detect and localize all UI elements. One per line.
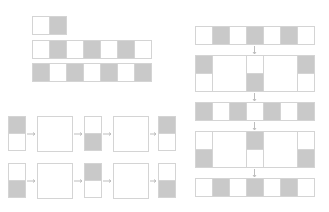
- white-cell: [9, 134, 26, 151]
- gray-cell: [247, 74, 264, 92]
- white-cell: [101, 41, 118, 59]
- gray-cell: [230, 103, 247, 121]
- gray-cell: [247, 179, 264, 197]
- white-cell: [298, 74, 315, 92]
- gray-cell: [298, 56, 315, 74]
- gray-cell: [298, 150, 315, 168]
- gray-cell: [9, 117, 26, 134]
- white-cell: [264, 27, 281, 45]
- gray-cell: [213, 27, 230, 45]
- gray-cell: [213, 179, 230, 197]
- gray-cell: [50, 41, 67, 59]
- white-cell: [33, 41, 50, 59]
- white-cell: [85, 117, 102, 134]
- white-cell: [196, 74, 213, 92]
- white-cell: [281, 103, 298, 121]
- white-cell: [213, 103, 230, 121]
- white-cell: [9, 164, 26, 181]
- gray-cell: [85, 134, 102, 151]
- white-cell: [85, 181, 102, 198]
- gray-cell: [247, 132, 264, 150]
- gray-cell: [196, 56, 213, 74]
- white-cell: [118, 64, 135, 82]
- gray-cell: [33, 64, 50, 82]
- white-cell: [230, 27, 247, 45]
- big-box: [114, 117, 149, 152]
- gray-cell: [135, 64, 152, 82]
- white-cell: [33, 17, 50, 35]
- gray-cell: [50, 17, 67, 35]
- big-box: [38, 164, 73, 199]
- gray-cell: [281, 179, 298, 197]
- big-box: [38, 117, 73, 152]
- white-cell: [196, 27, 213, 45]
- gray-cell: [9, 181, 26, 198]
- gray-cell: [298, 103, 315, 121]
- white-cell: [159, 164, 176, 181]
- big-box: [114, 164, 149, 199]
- gray-cell: [159, 117, 176, 134]
- white-cell: [135, 41, 152, 59]
- white-cell: [247, 56, 264, 74]
- gray-cell: [247, 27, 264, 45]
- white-cell: [230, 179, 247, 197]
- gray-cell: [264, 103, 281, 121]
- white-cell: [84, 64, 101, 82]
- white-cell: [67, 41, 84, 59]
- gray-cell: [159, 181, 176, 198]
- white-cell: [196, 132, 213, 150]
- white-cell: [264, 179, 281, 197]
- white-cell: [298, 179, 315, 197]
- big-box: [264, 56, 298, 92]
- gray-cell: [67, 64, 84, 82]
- white-cell: [247, 103, 264, 121]
- big-box: [264, 132, 298, 168]
- gray-cell: [281, 27, 298, 45]
- white-cell: [298, 132, 315, 150]
- gray-cell: [85, 164, 102, 181]
- gray-cell: [101, 64, 118, 82]
- big-box: [213, 132, 247, 168]
- big-box: [213, 56, 247, 92]
- gray-cell: [196, 150, 213, 168]
- white-cell: [159, 134, 176, 151]
- white-cell: [247, 150, 264, 168]
- white-cell: [298, 27, 315, 45]
- gray-cell: [84, 41, 101, 59]
- white-cell: [50, 64, 67, 82]
- white-cell: [196, 179, 213, 197]
- gray-cell: [118, 41, 135, 59]
- gray-cell: [196, 103, 213, 121]
- diagram-canvas: [0, 0, 329, 212]
